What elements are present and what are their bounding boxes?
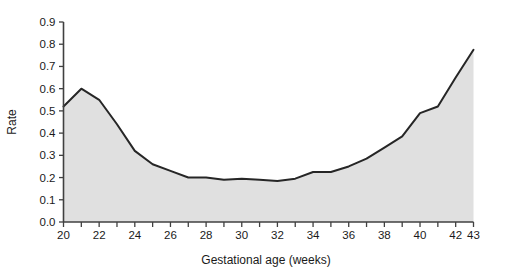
y-axis-tick-label: 0.2 [40,172,56,184]
y-axis-tick-label: 0.7 [40,60,56,72]
x-axis-tick-label: 40 [414,229,427,241]
y-axis-title: Rate [5,109,19,135]
x-axis-tick-label: 36 [342,229,355,241]
x-axis-tick-label: 20 [57,229,70,241]
x-axis-tick-label: 42 [449,229,462,241]
y-axis-tick-label: 0.6 [40,83,56,95]
x-axis-tick-label: 34 [307,229,320,241]
x-axis-tick-label: 22 [93,229,106,241]
y-axis-tick-label: 0.1 [40,194,56,206]
y-axis-tick-label: 0.8 [40,38,56,50]
x-axis-tick-label: 28 [200,229,213,241]
y-axis-tick-label: 0.0 [40,216,56,228]
y-axis-tick-label: 0.9 [40,16,56,28]
x-axis-tick-label: 26 [164,229,177,241]
x-axis-tick-label: 24 [128,229,141,241]
x-axis-tick-label: 30 [235,229,248,241]
y-axis-tick-label: 0.3 [40,149,56,161]
chart-container: 0.00.10.20.30.40.50.60.70.80.9 202224262… [0,0,509,272]
rate-by-gestational-age-area-chart: 0.00.10.20.30.40.50.60.70.80.9 202224262… [0,0,509,272]
x-axis-tick-label: 32 [271,229,284,241]
y-axis-tick-label: 0.5 [40,105,56,117]
x-axis-tick-label: 38 [378,229,391,241]
x-axis-title: Gestational age (weeks) [201,253,330,267]
x-axis-tick-label: 43 [467,229,480,241]
y-axis-tick-label: 0.4 [40,127,57,139]
